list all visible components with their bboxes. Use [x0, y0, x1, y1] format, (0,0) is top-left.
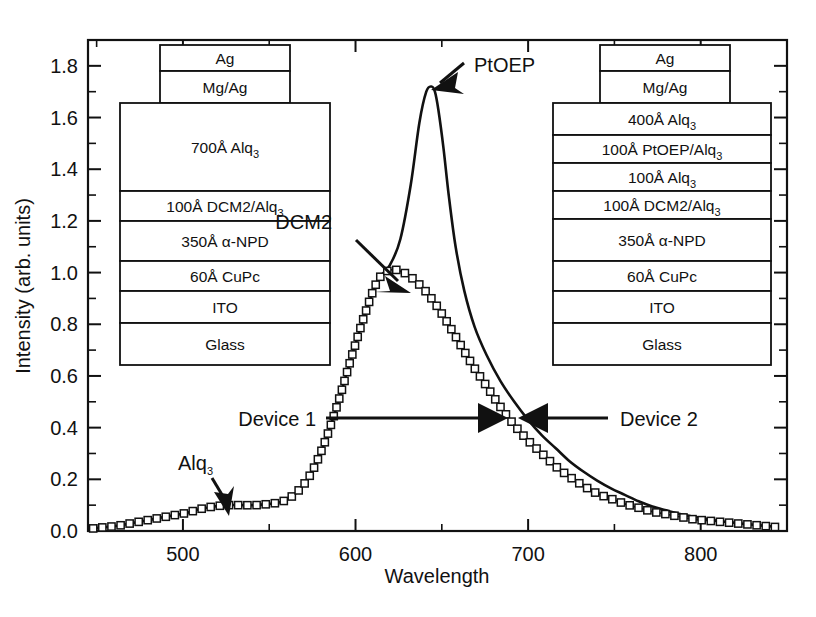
data-marker [428, 295, 435, 302]
data-marker [318, 447, 325, 454]
data-marker [707, 517, 714, 524]
data-marker [422, 288, 429, 295]
data-marker [366, 298, 373, 305]
data-marker [635, 504, 642, 511]
ptoep-label: PtOEP [474, 54, 535, 76]
x-axis-title: Wavelength [385, 565, 490, 587]
data-marker [497, 403, 504, 410]
x-tick-label: 600 [339, 543, 372, 565]
data-marker [514, 425, 521, 432]
data-marker [189, 508, 196, 515]
data-marker [482, 380, 489, 387]
stack-layer-label: 350Å α-NPD [181, 233, 268, 250]
data-marker [108, 523, 115, 530]
data-marker [487, 388, 494, 395]
data-marker [735, 520, 742, 527]
data-marker [324, 430, 331, 437]
y-axis-title: Intensity (arb. units) [12, 198, 34, 374]
data-marker [508, 418, 515, 425]
stack-layer-label: 350Å α-NPD [618, 232, 705, 249]
data-marker [343, 368, 350, 375]
stack-layer-label: Glass [205, 336, 245, 353]
data-marker [180, 510, 187, 517]
y-tick-label: 1.2 [50, 210, 78, 232]
data-marker [762, 523, 769, 530]
y-tick-label: 1.8 [50, 55, 78, 77]
stack-layer-label: 60Å CuPc [627, 268, 697, 285]
data-marker [726, 519, 733, 526]
y-tick-label: 0.4 [50, 417, 78, 439]
data-marker [360, 316, 367, 323]
data-marker [295, 487, 302, 494]
data-marker [162, 513, 169, 520]
data-marker [568, 475, 575, 482]
data-marker [462, 349, 469, 356]
data-marker [600, 493, 607, 500]
data-marker [372, 281, 379, 288]
data-marker [349, 351, 356, 358]
data-marker [126, 520, 133, 527]
data-marker [401, 270, 408, 277]
data-marker [576, 480, 583, 487]
y-tick-label: 0.2 [50, 468, 78, 490]
device-2-label: Device 2 [620, 408, 698, 430]
data-marker [433, 302, 440, 309]
data-marker [301, 480, 308, 487]
y-tick-label: 1.4 [50, 158, 78, 180]
data-marker [306, 472, 313, 479]
data-marker [553, 464, 560, 471]
device-1-label: Device 1 [238, 408, 316, 430]
spectrum-plot: 500600700800 0.00.20.40.60.81.01.21.41.6… [0, 0, 816, 617]
data-marker [689, 516, 696, 523]
data-marker [354, 333, 361, 340]
data-marker [584, 484, 591, 491]
dcm2-label: DCM2 [275, 211, 332, 233]
stack-layer-label: ITO [649, 299, 675, 316]
data-marker [262, 501, 269, 508]
data-marker [753, 522, 760, 529]
data-marker [310, 464, 317, 471]
data-marker [471, 365, 478, 372]
y-tick-label: 0.6 [50, 365, 78, 387]
data-marker [271, 500, 278, 507]
data-marker [592, 489, 599, 496]
data-marker [617, 499, 624, 506]
data-marker [653, 509, 660, 516]
stack-layer-label: 60Å CuPc [190, 268, 260, 285]
data-marker [443, 318, 450, 325]
data-marker [135, 518, 142, 525]
data-marker [744, 521, 751, 528]
stack-layer-label: Ag [656, 50, 675, 67]
data-marker [452, 334, 459, 341]
data-marker [336, 395, 343, 402]
data-marker [346, 360, 353, 367]
data-marker [171, 511, 178, 518]
data-marker [671, 512, 678, 519]
stack-layer-label: Glass [642, 336, 682, 353]
data-marker [333, 404, 340, 411]
data-marker [492, 396, 499, 403]
figure-root: 500600700800 0.00.20.40.60.81.01.21.41.6… [0, 0, 816, 617]
data-marker [609, 496, 616, 503]
stack-layer-label: Ag [216, 50, 235, 67]
data-marker [466, 357, 473, 364]
data-marker [314, 456, 321, 463]
stack-layer-label: Mg/Ag [643, 79, 688, 96]
data-marker [771, 523, 778, 530]
data-marker [198, 505, 205, 512]
x-tick-label: 800 [684, 543, 717, 565]
data-marker [644, 507, 651, 514]
y-tick-label: 0.0 [50, 520, 78, 542]
data-marker [117, 522, 124, 529]
y-tick-label: 1.0 [50, 262, 78, 284]
data-marker [153, 515, 160, 522]
data-marker [716, 518, 723, 525]
data-marker [457, 341, 464, 348]
data-marker [377, 273, 384, 280]
x-tick-label: 500 [166, 543, 199, 565]
stack-layer-label: ITO [212, 299, 238, 316]
data-marker [207, 503, 214, 510]
data-marker [321, 439, 328, 446]
data-marker [369, 290, 376, 297]
data-marker [253, 502, 260, 509]
